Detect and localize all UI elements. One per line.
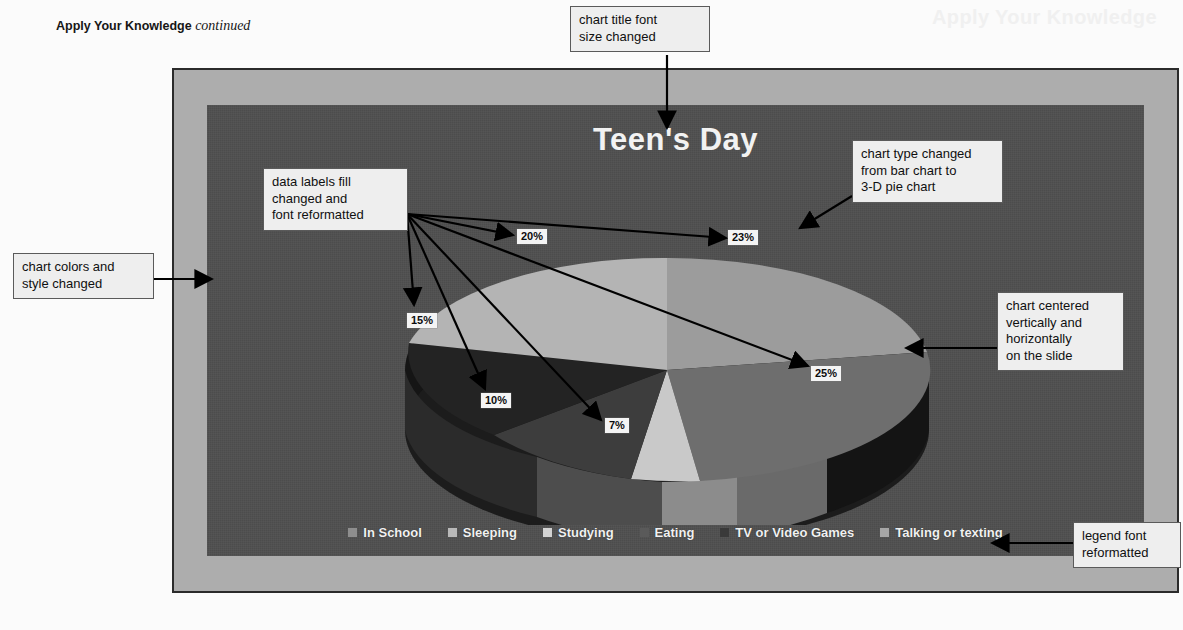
legend-swatch-icon	[448, 528, 457, 537]
legend-item-sleeping[interactable]: Sleeping	[448, 525, 517, 540]
data-label-10: 10%	[481, 393, 511, 408]
callout-legend-font: legend font reformatted	[1073, 522, 1181, 568]
legend-item-studying[interactable]: Studying	[543, 525, 614, 540]
legend-item-in-school[interactable]: In School	[348, 525, 422, 540]
pie-slice-in-school	[667, 258, 927, 370]
callout-chart-type: chart type changed from bar chart to 3-D…	[852, 140, 1003, 203]
legend-label: In School	[363, 525, 422, 540]
legend-swatch-icon	[640, 528, 649, 537]
legend-swatch-icon	[348, 528, 357, 537]
chart-legend: In School Sleeping Studying Eating TV or…	[207, 525, 1144, 540]
callout-chart-colors: chart colors and style changed	[13, 253, 154, 299]
legend-swatch-icon	[880, 528, 889, 537]
data-label-20: 20%	[517, 229, 547, 244]
data-label-23: 23%	[728, 230, 758, 245]
callout-data-labels: data labels fill changed and font reform…	[263, 168, 408, 231]
page-heading-bold: Apply Your Knowledge	[56, 19, 192, 33]
data-label-25: 25%	[811, 366, 841, 381]
legend-label: Sleeping	[463, 525, 517, 540]
callout-centered: chart centered vertically and horizontal…	[997, 292, 1124, 371]
legend-label: Studying	[558, 525, 614, 540]
legend-label: TV or Video Games	[735, 525, 854, 540]
legend-swatch-icon	[720, 528, 729, 537]
data-label-7: 7%	[605, 418, 629, 433]
legend-item-tv-or-video-games[interactable]: TV or Video Games	[720, 525, 854, 540]
callout-title-font: chart title font size changed	[570, 6, 710, 52]
legend-item-eating[interactable]: Eating	[640, 525, 695, 540]
data-label-15: 15%	[407, 313, 437, 328]
ghost-heading-bleed: Apply Your Knowledge	[932, 6, 1157, 29]
page-heading: Apply Your Knowledge continued	[56, 18, 250, 34]
legend-item-talking-or-texting[interactable]: Talking or texting	[880, 525, 1002, 540]
legend-swatch-icon	[543, 528, 552, 537]
page-heading-italic: continued	[195, 18, 250, 33]
legend-label: Eating	[655, 525, 695, 540]
legend-label: Talking or texting	[895, 525, 1002, 540]
